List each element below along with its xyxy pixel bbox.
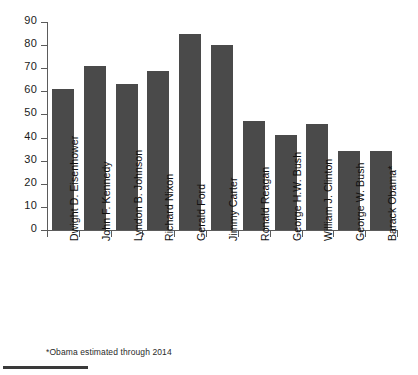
x-axis-category-label: Gerald Ford: [195, 184, 207, 241]
bar-chart-figure: 0102030405060708090 Dwight D. Eisenhower…: [0, 0, 418, 375]
y-axis-tick-label: 90: [0, 14, 37, 26]
y-axis-tick-label: 60: [0, 83, 37, 95]
bottom-rule: [3, 366, 88, 369]
x-axis-category-label: William J. Clinton: [322, 159, 334, 241]
y-axis-tick-label: 30: [0, 153, 37, 165]
x-axis-category-label: George H.W. Bush: [291, 152, 303, 241]
x-axis-category-label: Lyndon B. Johnson: [132, 150, 144, 241]
x-axis-category-label: Richard Nixon: [163, 174, 175, 241]
x-axis-category-label: John F. Kennedy: [100, 161, 112, 241]
y-axis-tick-label: 10: [0, 199, 37, 211]
x-axis-category-label: Barack Obama*: [386, 166, 398, 241]
chart-footnote: *Obama estimated through 2014: [46, 347, 172, 357]
x-axis-category-label: Ronald Reagan: [259, 167, 271, 241]
y-axis-tick-label: 80: [0, 37, 37, 49]
x-axis-category-label: Jimmy Carter: [227, 177, 239, 241]
x-axis-tick-mark: [47, 231, 48, 237]
y-axis-tick-label: 20: [0, 176, 37, 188]
y-axis-tick-label: 0: [0, 222, 37, 234]
y-axis-tick-label: 40: [0, 130, 37, 142]
y-axis-tick-label: 50: [0, 106, 37, 118]
x-axis-category-label: Dwight D. Eisenhower: [68, 136, 80, 241]
y-axis-tick-label: 70: [0, 60, 37, 72]
x-axis-category-label: George W. Bush: [354, 163, 366, 241]
